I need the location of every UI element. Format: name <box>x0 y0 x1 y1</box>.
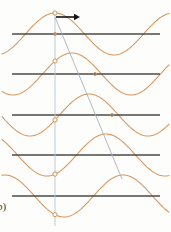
propagation-direction-arrow <box>56 14 80 20</box>
wave-diagram-canvas <box>0 0 171 232</box>
wave-propagation-figure: b) <box>0 0 171 232</box>
arrow-head-icon <box>74 14 80 20</box>
wave-intersection-marker <box>53 118 57 122</box>
wave-intersection-marker <box>53 59 57 63</box>
wave-intersection-marker <box>53 11 57 15</box>
wave-intersection-markers-group <box>53 11 114 217</box>
wave-intersection-marker <box>53 172 57 176</box>
wave-intersection-marker <box>53 213 57 217</box>
panel-label: b) <box>0 200 6 212</box>
